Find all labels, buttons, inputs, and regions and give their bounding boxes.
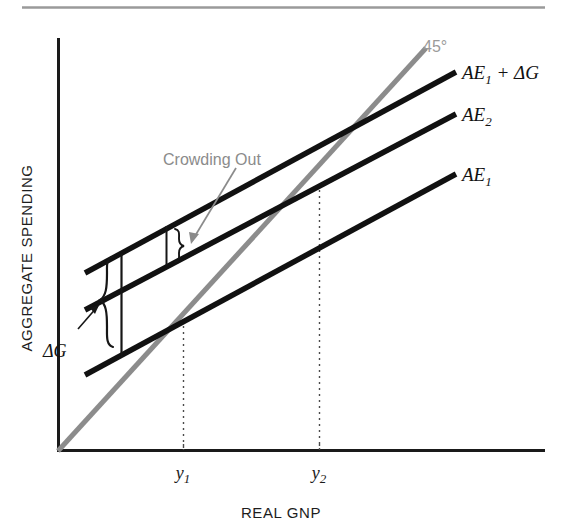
- forty-five-degree-line: [58, 48, 426, 451]
- tick-label-y2: y2: [310, 463, 327, 486]
- tick-label-y2-sub: 2: [320, 471, 327, 486]
- crowding-out-arrow-head: [189, 232, 199, 244]
- label-ae1-main: AE: [460, 164, 486, 185]
- economics-diagram: 45° AE1 + ΔG AE2 AE1 Crowding Out ΔG y1 …: [0, 0, 567, 527]
- y-axis-label: AGGREGATE SPENDING: [18, 164, 35, 351]
- label-delta-g: ΔG: [42, 341, 67, 361]
- label-ae2-sub: 2: [485, 114, 492, 129]
- delta-g-measure-group: [78, 254, 122, 357]
- label-forty-five-degree: 45°: [423, 38, 447, 55]
- tick-label-y1-main: y: [174, 463, 184, 483]
- x-axis-label: REAL GNP: [241, 504, 321, 521]
- tick-label-y1-sub: 1: [184, 471, 191, 486]
- curve-ae1-plus-delta-g: [85, 72, 456, 273]
- label-ae1-plus-delta-g-extra: ΔG: [513, 62, 539, 83]
- label-crowding-out: Crowding Out: [163, 151, 261, 168]
- label-ae2-main: AE: [460, 104, 486, 125]
- label-ae1-plus-delta-g: AE1 + ΔG: [460, 62, 539, 87]
- curve-ae1: [85, 174, 456, 375]
- tick-label-y1: y1: [174, 463, 191, 486]
- label-ae1-plus-delta-g-tail: +: [492, 62, 514, 83]
- label-ae1-plus-delta-g-main: AE: [460, 62, 486, 83]
- tick-label-y2-main: y: [310, 463, 320, 483]
- axes-group: [57, 38, 545, 452]
- delta-g-curly-brace: [100, 257, 113, 347]
- label-ae2: AE2: [460, 104, 492, 129]
- crowding-out-arrow: [192, 168, 236, 241]
- curve-ae2: [85, 114, 456, 310]
- label-ae1-sub: 1: [485, 174, 492, 189]
- label-ae1: AE1: [460, 164, 492, 189]
- figure-container: 45° AE1 + ΔG AE2 AE1 Crowding Out ΔG y1 …: [0, 0, 567, 527]
